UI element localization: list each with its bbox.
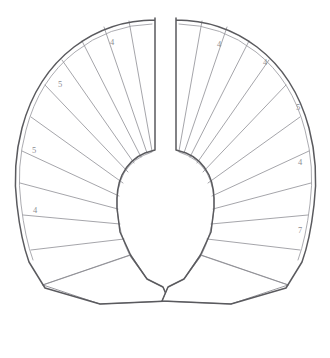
panel-label: 7: [298, 225, 302, 235]
pattern-drawing-svg: 4 5 5 4 4 4 5 4 7: [0, 0, 330, 358]
panel-label: 5: [296, 102, 300, 112]
panel-label: 5: [58, 79, 62, 89]
pattern-drawing-canvas: 4 5 5 4 4 4 5 4 7: [0, 0, 330, 358]
panel-label: 5: [32, 145, 36, 155]
